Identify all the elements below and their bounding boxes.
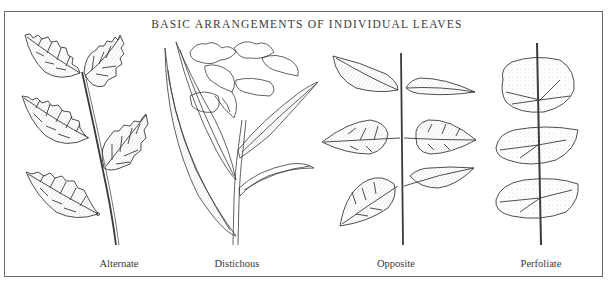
label-perfoliate: Perfoliate [521, 258, 562, 269]
label-alternate: Alternate [99, 258, 138, 269]
alternate-plant-drawing [22, 34, 148, 245]
label-opposite: Opposite [377, 258, 415, 269]
distichous-plant-drawing [165, 42, 318, 245]
leaf-illustrations [0, 0, 614, 283]
label-distichous: Distichous [215, 258, 260, 269]
perfoliate-plant-drawing [496, 43, 578, 245]
opposite-plant-drawing [322, 53, 476, 245]
